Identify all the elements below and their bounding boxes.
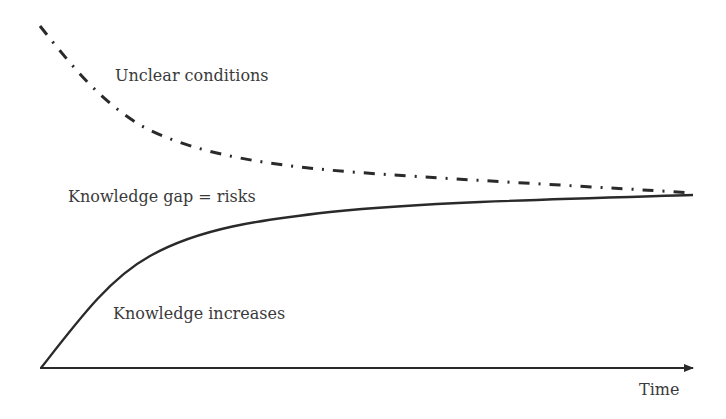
diagram-canvas: Unclear conditions Knowledge gap = risks…	[0, 0, 726, 419]
time-axis-label: Time	[639, 380, 679, 399]
unclear-conditions-label: Unclear conditions	[115, 66, 269, 85]
unclear-conditions-curve	[40, 26, 693, 193]
knowledge-curve	[41, 195, 693, 368]
diagram-graphics	[0, 0, 726, 419]
knowledge-increases-label: Knowledge increases	[113, 304, 285, 323]
knowledge-gap-label: Knowledge gap = risks	[68, 187, 256, 206]
